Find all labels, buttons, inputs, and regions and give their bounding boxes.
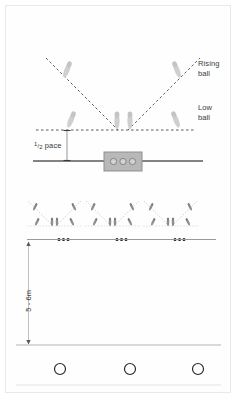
mini-path-right: [114, 201, 139, 226]
rising-ball-path-left: [46, 58, 118, 130]
half-pace-word: pace: [45, 141, 62, 150]
mini-figure-low-left: [150, 218, 156, 226]
depth-arrow-top: [26, 242, 30, 247]
mini-figure-center-right: [56, 218, 59, 226]
player-figure-rising-right: [171, 61, 182, 79]
mini-path-left: [144, 201, 169, 226]
mini-path-left: [28, 201, 53, 226]
player-figure-low-left: [66, 111, 77, 129]
middle-drill-section: [27, 201, 216, 241]
mini-path-left: [86, 201, 111, 226]
mini-path-right: [172, 201, 197, 226]
half-pace-fraction: 1/2: [34, 143, 43, 149]
player-figure-low-right: [170, 111, 181, 129]
mini-figure-center-left: [167, 218, 170, 226]
drill-repeat-unit: [143, 201, 199, 241]
rising-ball-path-right: [128, 58, 200, 130]
mini-figure-center-left: [51, 218, 54, 226]
mini-path-right: [56, 201, 81, 226]
top-section: [0, 0, 200, 130]
diagram-page: Rising ball Low ball 1/2 pace 5 - 6m: [0, 0, 237, 399]
half-pace-denominator: 2: [39, 144, 42, 150]
drill-repeat-unit: [27, 201, 83, 241]
half-pace-numerator: 1: [34, 141, 37, 147]
player-figure-rising-left: [62, 61, 73, 79]
drill-repeat-unit: [85, 201, 141, 241]
target-circle: [55, 364, 66, 375]
mini-figure-center-left: [109, 218, 112, 226]
label-depth-distance: 5 - 6m: [24, 271, 34, 331]
label-half-pace: 1/2 pace: [34, 140, 62, 153]
ball-machine-ball-2: [120, 158, 126, 164]
mini-figure-low-left: [92, 218, 98, 226]
mini-figure-center-right: [172, 218, 175, 226]
player-figure-center-left: [114, 112, 119, 130]
ball-machine-ball-3: [129, 158, 135, 164]
label-rising-ball: Rising ball: [198, 59, 219, 78]
ball-machine-ball-1: [110, 158, 116, 164]
mini-figure-low-right: [69, 218, 75, 226]
bottom-section: [16, 345, 221, 385]
label-low-ball: Low ball: [198, 103, 212, 122]
mini-figure-low-left: [34, 218, 40, 226]
mini-figure-low-right: [185, 218, 191, 226]
target-circle: [193, 364, 204, 375]
target-circle: [125, 364, 136, 375]
mini-figure-low-right: [127, 218, 133, 226]
player-figure-center-right: [127, 112, 132, 130]
mini-figure-center-right: [114, 218, 117, 226]
depth-arrow-bottom: [26, 340, 30, 345]
